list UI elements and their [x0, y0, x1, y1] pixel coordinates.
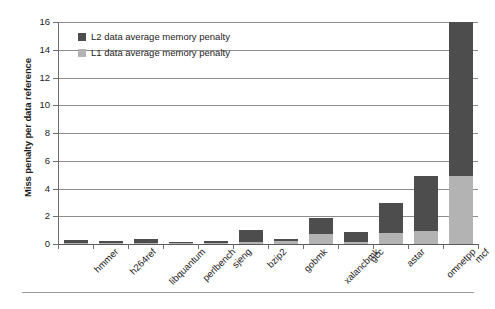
- legend-swatch-l2-icon: [78, 33, 86, 41]
- bar-gcc[interactable]: [344, 232, 368, 244]
- bar-astar[interactable]: [379, 203, 403, 244]
- y-axis-tick-label: 16: [24, 16, 50, 27]
- bar-segment-l1: [99, 243, 123, 244]
- y-axis-tick-label: 0: [24, 238, 50, 249]
- x-axis-label-astar: astar: [404, 246, 427, 269]
- chart-legend: L2 data average memory penalty L1 data a…: [78, 30, 230, 62]
- bar-omnetpp[interactable]: [414, 176, 438, 244]
- bar-segment-l1: [344, 242, 368, 244]
- legend-item-l1: L1 data average memory penalty: [78, 46, 230, 59]
- bar-slot: [233, 22, 268, 244]
- bar-segment-l1: [379, 233, 403, 244]
- bar-slot: [408, 22, 443, 244]
- bar-segment-l1: [204, 243, 228, 244]
- bar-slot: [443, 22, 478, 244]
- bar-slot: [373, 22, 408, 244]
- bar-hmmer[interactable]: [64, 240, 88, 244]
- bar-libquantum[interactable]: [134, 239, 158, 244]
- bar-segment-l1: [449, 176, 473, 244]
- bar-segment-l1: [64, 243, 88, 244]
- x-axis-label-hmmer: hmmer: [91, 246, 120, 275]
- y-axis-tick-label: 6: [24, 155, 50, 166]
- y-axis-tick-label: 14: [24, 44, 50, 55]
- bar-segment-l2: [414, 176, 438, 231]
- chart-container: Miss penalty per data reference 02468101…: [0, 0, 495, 309]
- y-axis-tick-label: 12: [24, 72, 50, 83]
- x-axis-label-mcf: mcf: [472, 246, 491, 265]
- x-axis-tick-mark: [478, 244, 479, 249]
- bar-sjeng[interactable]: [204, 241, 228, 244]
- bar-h264ref[interactable]: [99, 241, 123, 244]
- x-axis-label-layer: hmmerh264reflibquantumperlbenchsjengbzip…: [58, 246, 478, 304]
- bar-segment-l1: [309, 234, 333, 244]
- legend-label-l1: L1 data average memory penalty: [91, 47, 230, 58]
- bar-gobmk[interactable]: [274, 239, 298, 244]
- bar-segment-l2: [309, 218, 333, 234]
- x-axis-label-gobmk: gobmk: [301, 246, 329, 274]
- y-axis-tick-label: 8: [24, 127, 50, 138]
- bar-segment-l2: [449, 22, 473, 176]
- bar-segment-l1: [414, 231, 438, 244]
- bar-segment-l2: [379, 203, 403, 233]
- x-axis-label-omnetpp: omnetpp: [443, 246, 477, 280]
- x-axis-label-libquantum: libquantum: [166, 246, 207, 287]
- x-axis-label-h264ref: h264ref: [127, 246, 158, 277]
- bar-mcf[interactable]: [449, 22, 473, 244]
- bar-segment-l2: [239, 230, 263, 242]
- y-axis-tick-label: 4: [24, 183, 50, 194]
- bottom-divider: [22, 292, 474, 293]
- bar-slot: [303, 22, 338, 244]
- bar-xalancbmk[interactable]: [309, 218, 333, 244]
- bar-segment-l1: [274, 241, 298, 244]
- x-axis-label-bzip2: bzip2: [264, 246, 288, 270]
- bar-segment-l1: [169, 243, 193, 244]
- legend-swatch-l1-icon: [78, 49, 86, 57]
- y-axis-tick-label: 2: [24, 210, 50, 221]
- bar-segment-l1: [239, 242, 263, 244]
- legend-label-l2: L2 data average memory penalty: [91, 31, 230, 42]
- legend-item-l2: L2 data average memory penalty: [78, 30, 230, 43]
- bar-segment-l1: [134, 243, 158, 244]
- bar-slot: [338, 22, 373, 244]
- y-axis-tick-label: 10: [24, 99, 50, 110]
- bar-segment-l2: [344, 232, 368, 242]
- bar-perlbench[interactable]: [169, 242, 193, 244]
- bar-slot: [268, 22, 303, 244]
- bar-bzip2[interactable]: [239, 230, 263, 244]
